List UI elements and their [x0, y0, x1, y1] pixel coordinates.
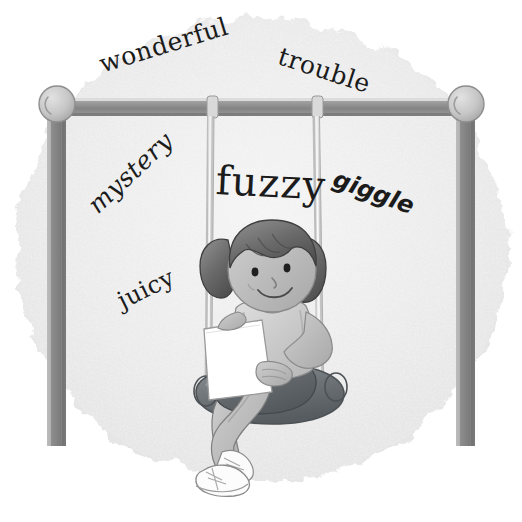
girl-figure [196, 220, 332, 496]
swing-right-cap [448, 86, 484, 122]
girl-eye-right [284, 264, 291, 273]
girl-head [228, 220, 316, 312]
word-fuzzy[interactable]: fuzzy [215, 160, 327, 206]
swing-and-figure-layer [0, 0, 522, 522]
rope-collar-left [207, 96, 218, 118]
girl-eye-left [252, 268, 259, 277]
girl-paper [204, 320, 272, 400]
swing-right-post [456, 100, 475, 446]
illustration-canvas: wonderful trouble mystery fuzzy giggle j… [0, 0, 522, 522]
swing-crossbar [56, 98, 468, 116]
swing-left-post [47, 100, 66, 446]
swing-left-cap [39, 86, 75, 122]
rope-collar-right [312, 96, 323, 118]
